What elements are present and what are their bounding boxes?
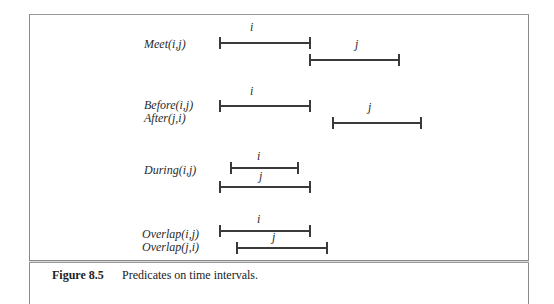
- interval-during-i: [231, 167, 298, 169]
- interval-meet-i: [220, 42, 310, 44]
- interval-label-i: i: [250, 21, 253, 33]
- predicate-label-overlap-ji: Overlap(j,i): [142, 241, 199, 253]
- interval-label-i: i: [257, 213, 260, 225]
- figure-caption-text: Predicates on time intervals.: [122, 268, 258, 282]
- interval-overlap-i: [220, 230, 310, 232]
- predicate-label-before: Before(i,j): [144, 99, 193, 111]
- interval-label-j: j: [355, 38, 358, 50]
- caption-separator: [29, 260, 529, 263]
- interval-before-i: [220, 105, 310, 107]
- figure-caption: Figure 8.5Predicates on time intervals.: [52, 268, 258, 282]
- interval-label-j: j: [272, 231, 275, 243]
- interval-label-j: j: [368, 101, 371, 113]
- interval-before-j: [333, 122, 421, 124]
- interval-overlap-j: [237, 247, 327, 249]
- figure-number: Figure 8.5: [52, 268, 122, 282]
- predicate-label-during: During(i,j): [144, 164, 196, 176]
- interval-during-j: [220, 186, 310, 188]
- predicate-label-meet: Meet(i,j): [144, 38, 186, 50]
- interval-label-i: i: [250, 85, 253, 97]
- predicate-label-after: After(j,i): [144, 112, 186, 124]
- interval-label-j: j: [259, 170, 262, 182]
- predicate-label-overlap-ij: Overlap(i,j): [142, 228, 199, 240]
- interval-meet-j: [310, 59, 399, 61]
- interval-label-i: i: [257, 150, 260, 162]
